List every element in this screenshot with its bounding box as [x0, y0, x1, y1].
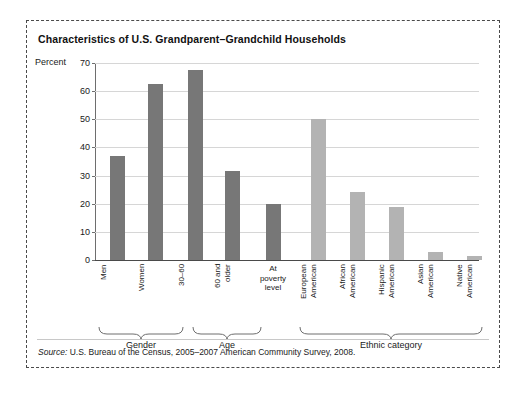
y-tick-mark [92, 176, 95, 177]
source-prefix: Source: [38, 347, 67, 357]
bar-30-60[interactable] [188, 70, 203, 260]
y-tick-mark [92, 119, 95, 120]
hispanic-line2: American [387, 264, 396, 298]
y-tick-mark [92, 91, 95, 92]
asian-line1: Asian [416, 264, 425, 284]
bar-hispanic-american[interactable] [389, 207, 404, 260]
group-braces: Gender Age Ethnic category [95, 325, 495, 365]
age-60-older-line1: 60 and [213, 264, 222, 288]
category-label-asian-american: AsianAmerican [416, 264, 456, 322]
poverty-line3: level [265, 283, 281, 292]
y-tick-label: 20 [80, 199, 90, 209]
hispanic-line1: Hispanic [377, 264, 386, 295]
category-label-age-30-60: 30–60 [177, 264, 215, 322]
bar-women[interactable] [148, 84, 163, 260]
african-line2: American [348, 264, 357, 298]
european-line2: American [309, 264, 318, 298]
bar-asian-american[interactable] [428, 252, 443, 260]
category-label-women: Women [137, 264, 175, 322]
bar-african-american[interactable] [350, 192, 365, 260]
category-label-european-american: EuropeanAmerican [299, 264, 339, 322]
y-tick-label: 70 [80, 58, 90, 68]
native-line1: Native [455, 264, 464, 287]
figure-container: Characteristics of U.S. Grandparent–Gran… [26, 20, 500, 368]
category-labels: Men Women 30–60 60 andolder At poverty l… [95, 264, 479, 326]
y-tick-mark [92, 63, 95, 64]
y-tick-label: 0 [85, 255, 90, 265]
source-text: U.S. Bureau of the Census, 2005–2007 Ame… [67, 347, 355, 357]
category-label-african-american: AfricanAmerican [338, 264, 378, 322]
age-60-older-line2: older [223, 264, 232, 282]
y-axis-label: Percent [35, 57, 66, 67]
y-tick-label: 30 [80, 171, 90, 181]
bar-men[interactable] [110, 156, 125, 260]
plot-area: 010203040506070 [95, 63, 479, 261]
category-label-age-60-older: 60 andolder [213, 264, 251, 322]
source-note: Source: U.S. Bureau of the Census, 2005–… [38, 347, 355, 357]
native-line2: American [465, 264, 474, 298]
category-label-poverty: At poverty level [247, 264, 299, 293]
y-tick-mark [92, 260, 95, 261]
bar-60-and-older[interactable] [225, 171, 240, 260]
category-label-hispanic-american: HispanicAmerican [377, 264, 417, 322]
y-tick-mark [92, 232, 95, 233]
y-tick-label: 60 [80, 86, 90, 96]
category-label-native-american: NativeAmerican [455, 264, 495, 322]
y-tick-mark [92, 147, 95, 148]
bar-native-american[interactable] [467, 256, 482, 260]
y-tick-label: 50 [80, 114, 90, 124]
chart-title: Characteristics of U.S. Grandparent–Gran… [38, 33, 346, 45]
asian-line2: American [426, 264, 435, 298]
y-tick-mark [92, 204, 95, 205]
poverty-line1: At [269, 264, 277, 273]
european-line1: European [299, 264, 308, 299]
african-line1: African [338, 264, 347, 289]
footer-divider [37, 339, 489, 340]
bar-european-american[interactable] [311, 119, 326, 260]
y-tick-label: 10 [80, 227, 90, 237]
bar-at-poverty-level[interactable] [266, 204, 281, 260]
gridline [95, 63, 479, 64]
poverty-line2: poverty [260, 274, 286, 283]
y-tick-label: 40 [80, 142, 90, 152]
category-label-men: Men [99, 264, 137, 322]
